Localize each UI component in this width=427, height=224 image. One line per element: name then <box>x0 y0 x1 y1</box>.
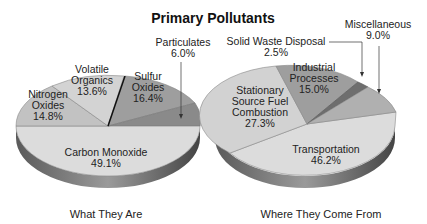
value-sulfur-oxides: 16.4% <box>133 92 163 104</box>
pollutant-pie-charts: Primary Pollutants Particulates 6.0% Vol… <box>0 0 427 224</box>
right-caption: Where They Come From <box>261 208 382 220</box>
value-transportation: 46.2% <box>311 154 341 166</box>
value-miscellaneous: 9.0% <box>366 29 390 41</box>
value-volatile-organics: 13.6% <box>77 85 107 97</box>
value-nitrogen-oxides: 14.8% <box>33 110 63 122</box>
value-carbon-monoxide: 49.1% <box>91 157 121 169</box>
value-industrial-processes: 15.0% <box>299 83 329 95</box>
value-solid-waste-disposal: 2.5% <box>264 46 288 58</box>
chart-title: Primary Pollutants <box>151 10 275 26</box>
value-stationary-source: 27.3% <box>245 117 275 129</box>
value-particulates: 6.0% <box>171 47 195 59</box>
left-caption: What They Are <box>70 208 143 220</box>
arrow-icon <box>360 72 364 77</box>
